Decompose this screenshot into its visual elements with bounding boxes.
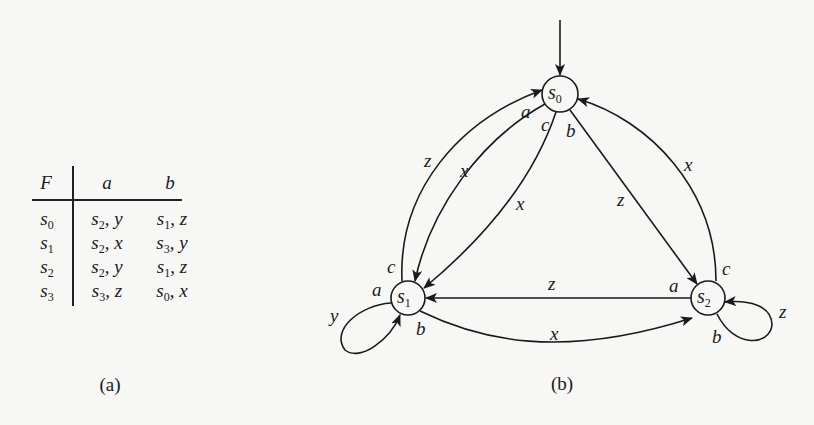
label-s0-s1-c-out: x <box>515 193 525 214</box>
label-s1-s0-in: c <box>387 256 396 277</box>
label-s1-loop-out: y <box>328 305 339 326</box>
label-s1-loop-in: a <box>372 279 382 300</box>
label-s1-s2-in: b <box>416 318 426 339</box>
label-s2-s1-in: a <box>669 275 679 296</box>
label-s2-loop-in: b <box>712 326 722 347</box>
state-diagram: s0 s1 s2 a c b z x x z x c a y b z x a c… <box>0 0 814 425</box>
node-s2: s2 <box>691 281 725 315</box>
node-s0: s0 <box>542 76 578 112</box>
label-s0-s2-in: b <box>566 120 576 141</box>
label-s1-s2-out: x <box>549 323 559 344</box>
label-s0-s1-a-out: x <box>459 160 469 181</box>
label-s2-s0-in: c <box>722 258 731 279</box>
label-s2-s1-out: z <box>547 273 556 294</box>
label-s1-s0-out: z <box>423 150 432 171</box>
label-s0-s1-c-in: c <box>541 114 550 135</box>
edge-s1-loop <box>341 303 400 353</box>
edge-s0-s2 <box>570 110 697 284</box>
edge-s0-s1-c <box>424 112 556 288</box>
diagram-caption: (b) <box>551 373 573 395</box>
edge-s2-s0 <box>578 99 716 281</box>
label-s2-s0-out: x <box>683 154 693 175</box>
label-s0-s2-out: z <box>616 189 625 210</box>
label-s2-loop-out: z <box>778 301 787 322</box>
node-s1: s1 <box>391 281 425 315</box>
edge-s0-s1-a <box>415 104 545 281</box>
label-s0-s1-a-in: a <box>521 101 531 122</box>
edge-s2-loop <box>717 302 772 341</box>
